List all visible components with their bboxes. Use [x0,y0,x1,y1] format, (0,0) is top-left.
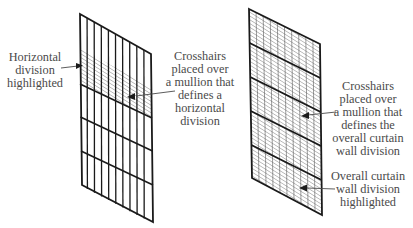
svg-text:overall curtain: overall curtain [332,131,403,145]
svg-text:Overall curtain: Overall curtain [331,169,405,183]
svg-text:Crosshairs: Crosshairs [342,79,394,93]
callout-crosshairs-overall-division: Crosshairs placed over a mullion that de… [332,79,403,158]
svg-text:horizontal: horizontal [175,101,225,115]
svg-text:highlighted: highlighted [340,195,396,209]
svg-text:defines the: defines the [341,118,395,132]
svg-text:Horizontal: Horizontal [9,50,62,64]
left-wall-frame [80,14,153,222]
svg-text:Crosshairs: Crosshairs [174,49,226,63]
svg-text:division: division [15,63,55,77]
svg-text:wall division: wall division [336,182,400,196]
callout-overall-division-highlighted: Overall curtain wall division highlighte… [331,169,405,209]
svg-text:placed over: placed over [339,92,396,106]
callout-crosshairs-horizontal-division: Crosshairs placed over a mullion that de… [166,49,235,128]
svg-text:defines a: defines a [178,88,223,102]
svg-text:a mullion that: a mullion that [166,75,235,89]
right-curtain-wall [249,9,322,215]
svg-text:a mullion that: a mullion that [334,105,403,119]
svg-text:placed over: placed over [171,62,228,76]
callout-horizontal-division-highlighted: Horizontal division highlighted [7,50,63,90]
svg-text:highlighted: highlighted [7,76,63,90]
vertical-mullions [87,18,144,219]
left-curtain-wall [80,14,153,222]
svg-text:wall division: wall division [336,144,400,158]
svg-text:division: division [180,114,220,128]
